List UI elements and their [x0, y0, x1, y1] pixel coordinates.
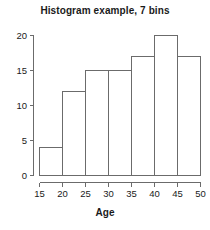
- y-tick-label: 20: [16, 30, 27, 41]
- histogram-bar: [40, 148, 63, 176]
- histogram-figure: Histogram example, 7 bins 0 5 10 15 20: [0, 0, 210, 230]
- x-tick-label: 25: [80, 188, 91, 199]
- histogram-bar: [109, 71, 132, 176]
- y-tick-label: 0: [22, 170, 27, 181]
- x-tick-label: 15: [34, 188, 45, 199]
- x-tick-label: 40: [149, 188, 160, 199]
- x-tick-label: 35: [126, 188, 137, 199]
- histogram-bar: [155, 36, 178, 176]
- y-tick-label: 10: [16, 100, 27, 111]
- y-axis: 0 5 10 15 20: [16, 30, 33, 181]
- histogram-bar: [178, 57, 201, 176]
- x-axis: 15 20 25 30 35 40 45 50: [34, 183, 206, 200]
- histogram-bar: [86, 71, 109, 176]
- histogram-bar: [132, 57, 155, 176]
- x-axis-label: Age: [0, 207, 210, 218]
- histogram-bar: [63, 92, 86, 176]
- x-tick-label: 50: [195, 188, 206, 199]
- bars-group: [40, 36, 201, 176]
- y-tick-label: 5: [22, 135, 27, 146]
- y-tick-label: 15: [16, 65, 27, 76]
- x-tick-label: 45: [172, 188, 183, 199]
- plot-area: 0 5 10 15 20 15 20 25 30 35 40 45 50: [0, 0, 210, 230]
- x-tick-label: 30: [103, 188, 114, 199]
- x-tick-label: 20: [57, 188, 68, 199]
